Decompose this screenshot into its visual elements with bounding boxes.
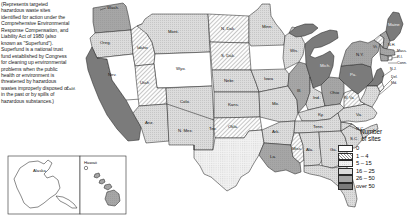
legend-swatch-1 xyxy=(338,153,353,160)
legend-title-line2: of sites xyxy=(338,135,404,142)
label-ri: R.I. xyxy=(397,55,403,59)
label-sdak: S. Dak. xyxy=(221,53,235,58)
label-wyo: Wyo. xyxy=(176,66,186,71)
label-calif: Calif. xyxy=(66,86,76,91)
label-ark: Ark. xyxy=(272,129,280,134)
label-ariz: Ariz. xyxy=(145,120,154,125)
label-conn: Conn. xyxy=(397,61,407,65)
label-utah: Utah xyxy=(140,80,149,85)
label-oreg: Oreg. xyxy=(100,40,111,45)
legend-label-2: 5 – 15 xyxy=(356,160,372,167)
label-kans: Kans. xyxy=(228,102,239,107)
label-colo: Colo. xyxy=(180,99,190,104)
label-idaho: Idaho xyxy=(137,45,148,50)
label-minn: Minn. xyxy=(262,24,273,29)
legend-label-1: 1 – 4 xyxy=(356,153,368,160)
map-legend: Number of sites 0 1 – 4 5 – 15 16 – 25 2… xyxy=(338,128,404,190)
label-nj: N.J. xyxy=(390,67,397,71)
label-mich: Mich. xyxy=(320,63,330,68)
label-ohio: Ohio xyxy=(330,90,339,95)
legend-label-0: 0 xyxy=(356,145,359,152)
label-mass: Mass. xyxy=(397,49,407,53)
label-ind: Ind. xyxy=(313,95,320,100)
label-tex: Tex. xyxy=(209,126,217,131)
label-mont: Mont. xyxy=(168,29,179,34)
legend-row-0[interactable]: 0 xyxy=(338,145,404,153)
label-okla: Okla. xyxy=(228,124,238,129)
label-hawaii: Hawaii xyxy=(84,160,97,165)
label-nebr: Nebr. xyxy=(224,78,234,83)
superfund-sites-map-figure: (Represents targeted hazardous waste sit… xyxy=(0,0,407,218)
legend-row-2[interactable]: 5 – 15 xyxy=(338,160,404,168)
legend-row-1[interactable]: 1 – 4 xyxy=(338,152,404,160)
label-la: La. xyxy=(270,154,276,159)
legend-label-4: 26 – 50 xyxy=(356,175,375,182)
label-nev: Nev. xyxy=(108,72,117,77)
label-iowa: Iowa xyxy=(264,76,273,81)
label-ala: Ala. xyxy=(306,147,313,152)
label-vt: Vt. xyxy=(373,45,378,49)
label-maine: Maine xyxy=(388,22,400,27)
label-ill: Ill. xyxy=(297,88,301,93)
legend-row-3[interactable]: 16 – 25 xyxy=(338,168,404,176)
label-md: Md. xyxy=(391,81,397,85)
legend-label-3: 16 – 25 xyxy=(356,168,375,175)
label-wash: Wash. xyxy=(107,5,119,10)
legend-label-5: over 50 xyxy=(356,183,375,190)
label-wva: W. Va. xyxy=(344,96,355,100)
label-ky: Ky. xyxy=(318,112,324,117)
legend-swatch-5 xyxy=(338,183,353,190)
label-ga: Ga. xyxy=(330,147,337,152)
label-del: Del. xyxy=(391,75,398,79)
legend-title: Number of sites xyxy=(338,128,404,143)
legend-title-line1: Number xyxy=(338,128,404,135)
legend-row-5[interactable]: over 50 xyxy=(338,183,404,191)
label-pa: Pa. xyxy=(350,72,356,77)
label-alaska: Alaska xyxy=(33,168,46,173)
label-wis: Wis. xyxy=(290,48,298,53)
label-nmex: N. Mex. xyxy=(178,128,193,133)
label-ndak: N. Dak. xyxy=(221,26,235,31)
label-ny: N.Y. xyxy=(356,52,364,57)
legend-swatch-4 xyxy=(338,175,353,182)
label-miss: Miss. xyxy=(292,146,302,151)
legend-swatch-3 xyxy=(338,168,353,175)
legend-swatch-2 xyxy=(338,160,353,167)
label-tenn: Tenn. xyxy=(313,124,324,129)
legend-swatch-0 xyxy=(338,145,353,152)
label-nh: N.H. xyxy=(388,43,395,47)
label-va: Va. xyxy=(356,112,362,117)
label-mo: Mo. xyxy=(272,101,279,106)
legend-row-4[interactable]: 26 – 50 xyxy=(338,175,404,183)
